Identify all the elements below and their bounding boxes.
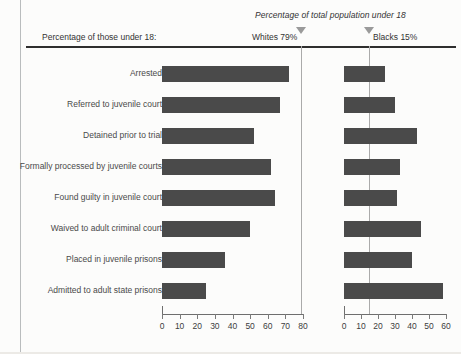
left-axis-tick-label: 10 [175, 321, 184, 331]
blacks-bar-track [344, 128, 446, 144]
right-axis-tick-label: 20 [373, 321, 382, 331]
whites-bar [162, 97, 280, 113]
blacks-bar [344, 128, 417, 144]
bar-row: Arrested [0, 63, 461, 94]
blacks-bar [344, 283, 443, 299]
right-axis-tick [344, 314, 345, 319]
whites-bar [162, 190, 275, 206]
whites-bar [162, 66, 289, 82]
left-axis-tick-label: 0 [160, 321, 165, 331]
blacks-bar-track [344, 97, 446, 113]
left-axis-tick-label: 40 [228, 321, 237, 331]
whites-bar-track [162, 97, 303, 113]
left-axis-tick [285, 314, 286, 319]
bar-row: Admitted to adult state prisons [0, 280, 461, 311]
bar-row: Found guilty in juvenile court [0, 187, 461, 218]
chart-figure: Percentage of total population under 18 … [0, 0, 461, 354]
whites-bar-track [162, 128, 303, 144]
blacks-bar [344, 252, 412, 268]
blacks-bar-track [344, 252, 446, 268]
right-axis-tick-label: 40 [407, 321, 416, 331]
left-axis-tick [250, 314, 251, 319]
left-axis-tick [197, 314, 198, 319]
left-axis-tick-label: 30 [210, 321, 219, 331]
whites-bar-track [162, 159, 303, 175]
bar-row-label: Detained prior to trial [83, 130, 162, 140]
left-axis-tick-label: 60 [263, 321, 272, 331]
whites-marker-triangle-icon [296, 27, 306, 34]
blacks-population-label: Blacks 15% [373, 32, 417, 42]
bar-row-label: Referred to juvenile court [67, 99, 162, 109]
whites-bar-track [162, 221, 303, 237]
whites-bar [162, 283, 206, 299]
left-axis-tick-label: 50 [245, 321, 254, 331]
right-axis-tick [412, 314, 413, 319]
blacks-bar-track [344, 66, 446, 82]
whites-bar-track [162, 190, 303, 206]
whites-bar [162, 159, 271, 175]
bar-row-label: Formally processed by juvenile courts [20, 161, 162, 171]
blacks-marker-triangle-icon [364, 27, 374, 34]
left-axis-caption: Percentage of those under 18: [42, 32, 156, 42]
bar-rows: ArrestedReferred to juvenile courtDetain… [0, 63, 461, 311]
right-axis-tick-label: 10 [356, 321, 365, 331]
blacks-bar-track [344, 283, 446, 299]
header-divider [26, 46, 456, 48]
left-axis-tick [268, 314, 269, 319]
right-axis-tick [395, 314, 396, 319]
left-axis-tick [180, 314, 181, 319]
blacks-bar [344, 159, 400, 175]
blacks-bar [344, 97, 395, 113]
whites-bar [162, 128, 254, 144]
whites-bar [162, 252, 225, 268]
bar-row-label: Placed in juvenile prisons [66, 254, 162, 264]
blacks-bar-track [344, 190, 446, 206]
right-axis-tick [446, 314, 447, 319]
right-axis-tick-label: 0 [342, 321, 347, 331]
right-axis-tick-label: 60 [441, 321, 450, 331]
left-axis-tick [162, 314, 163, 319]
left-axis-tick-label: 70 [281, 321, 290, 331]
whites-bar-track [162, 283, 303, 299]
right-axis-tick [429, 314, 430, 319]
left-axis-tick-label: 80 [298, 321, 307, 331]
blacks-bar-track [344, 159, 446, 175]
blacks-bar [344, 221, 421, 237]
whites-bar [162, 221, 250, 237]
left-axis-tick-label: 20 [193, 321, 202, 331]
bar-row: Detained prior to trial [0, 125, 461, 156]
bar-row: Formally processed by juvenile courts [0, 156, 461, 187]
right-axis-tick-label: 50 [424, 321, 433, 331]
chart-supertitle: Percentage of total population under 18 [255, 10, 461, 20]
blacks-bar-track [344, 221, 446, 237]
bar-row-label: Admitted to adult state prisons [48, 285, 162, 295]
bar-row-label: Arrested [130, 68, 162, 78]
bar-row-label: Waived to adult criminal court [51, 223, 162, 233]
left-axis-tick [215, 314, 216, 319]
whites-population-label: Whites 79% [252, 32, 297, 42]
blacks-bar [344, 66, 385, 82]
bar-row-label: Found guilty in juvenile court [54, 192, 162, 202]
right-axis-tick-label: 30 [390, 321, 399, 331]
bar-row: Placed in juvenile prisons [0, 249, 461, 280]
whites-bar-track [162, 252, 303, 268]
bar-row: Referred to juvenile court [0, 94, 461, 125]
left-axis-tick [233, 314, 234, 319]
blacks-bar [344, 190, 397, 206]
right-axis-tick [378, 314, 379, 319]
right-axis-tick [361, 314, 362, 319]
whites-bar-track [162, 66, 303, 82]
bar-row: Waived to adult criminal court [0, 218, 461, 249]
left-axis-tick [303, 314, 304, 319]
